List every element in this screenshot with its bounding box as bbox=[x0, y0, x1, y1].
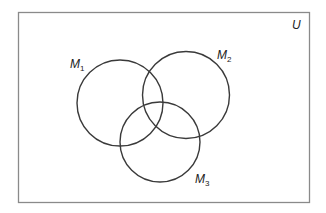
venn-diagram: U M1 M2 M3 bbox=[0, 0, 326, 213]
universe-rectangle bbox=[19, 13, 310, 203]
universe-label: U bbox=[292, 18, 301, 32]
